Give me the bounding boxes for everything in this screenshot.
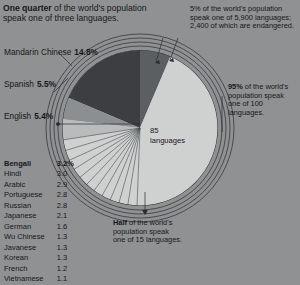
label-spanish: Spanish5.5% — [4, 80, 56, 90]
note-one-quarter-lead: One quarter — [3, 3, 52, 13]
note-one-quarter: One quarter of the world's population sp… — [3, 3, 153, 23]
language-name: Javanese — [4, 243, 45, 253]
note-five-percent: 5% of the world's population speak one o… — [190, 5, 298, 31]
language-name: Russian — [4, 201, 45, 211]
pie-center-count: 85 — [150, 126, 200, 136]
note-half: Half of the world's population speak one… — [113, 219, 183, 245]
language-value: 1.3 — [45, 253, 74, 263]
language-value: 1.1 — [45, 274, 74, 284]
language-value: 2.1 — [45, 211, 74, 221]
table-row: Japanese2.1 — [4, 211, 74, 221]
label-spanish-name: Spanish — [4, 79, 34, 89]
note-ninety-five-lead: 95% — [228, 82, 243, 91]
language-value: 3.2% — [45, 159, 74, 169]
table-row: German1.6 — [4, 222, 74, 232]
language-value: 1.6 — [45, 222, 74, 232]
language-name: Hindi — [4, 169, 45, 179]
language-value: 1.3 — [45, 243, 74, 253]
language-value: 3.0 — [45, 169, 74, 179]
label-english: English5.4% — [4, 112, 53, 122]
label-english-name: English — [4, 111, 31, 121]
label-english-value: 5.4% — [34, 111, 53, 121]
table-row: Arabic2.9 — [4, 180, 74, 190]
table-row: French1.2 — [4, 264, 74, 274]
label-spanish-value: 5.5% — [37, 79, 56, 89]
table-row: Russian2.8 — [4, 201, 74, 211]
table-row: Hindi3.0 — [4, 169, 74, 179]
pie-center-unit: languages — [150, 136, 200, 146]
table-row: Vietnamese1.1 — [4, 274, 74, 284]
language-name: Bengali — [4, 159, 45, 169]
note-ninety-five-percent: 95% of the world's population speak one … — [228, 83, 298, 118]
language-name: Vietnamese — [4, 274, 45, 284]
language-name: German — [4, 222, 45, 232]
table-row: Javanese1.3 — [4, 243, 74, 253]
language-name: French — [4, 264, 45, 274]
table-row: Wu Chinese1.3 — [4, 232, 74, 242]
language-name: Korean — [4, 253, 45, 263]
table-row: Bengali3.2% — [4, 159, 74, 169]
label-mandarin-chinese-value: 14.8% — [74, 47, 98, 57]
language-name: Wu Chinese — [4, 232, 45, 242]
language-value: 1.3 — [45, 232, 74, 242]
language-name: Portuguese — [4, 190, 45, 200]
language-name: Arabic — [4, 180, 45, 190]
language-value: 2.9 — [45, 180, 74, 190]
label-mandarin-chinese: Mandarin Chinese14.8% — [4, 48, 98, 58]
table-row: Portuguese2.8 — [4, 190, 74, 200]
table-row: Korean1.3 — [4, 253, 74, 263]
language-value: 2.8 — [45, 201, 74, 211]
pie-center-label: 85 languages — [150, 126, 200, 146]
language-value: 1.2 — [45, 264, 74, 274]
language-table-body: Bengali3.2%Hindi3.0Arabic2.9Portuguese2.… — [4, 159, 74, 285]
note-half-lead: Half — [113, 218, 127, 227]
label-mandarin-chinese-name: Mandarin Chinese — [4, 47, 71, 57]
language-value: 2.8 — [45, 190, 74, 200]
language-name: Japanese — [4, 211, 45, 221]
language-value-table: Bengali3.2%Hindi3.0Arabic2.9Portuguese2.… — [4, 159, 74, 285]
